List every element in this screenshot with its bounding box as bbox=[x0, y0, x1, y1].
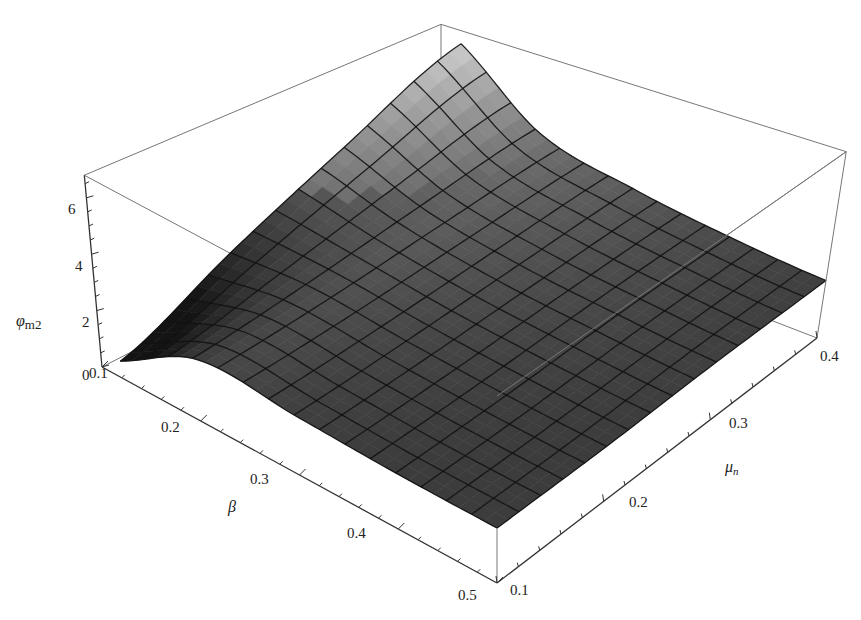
z-tick bbox=[96, 295, 100, 297]
mu-axis-title: μn bbox=[724, 458, 739, 477]
mu-tick bbox=[539, 546, 540, 550]
z-tick bbox=[85, 182, 89, 184]
beta-tick bbox=[359, 504, 362, 507]
mu-tick bbox=[795, 350, 796, 354]
beta-tick bbox=[181, 407, 184, 410]
z-tick bbox=[90, 238, 94, 240]
mu-tick bbox=[752, 383, 753, 387]
beta-tick-label: 0.3 bbox=[250, 471, 269, 487]
mu-tick bbox=[709, 413, 710, 420]
z-tick bbox=[94, 280, 98, 282]
mu-tick bbox=[645, 465, 646, 469]
beta-tick bbox=[339, 494, 342, 497]
beta-tick bbox=[398, 523, 404, 529]
beta-tick bbox=[280, 461, 283, 464]
mu-tick bbox=[603, 494, 604, 501]
box-edge bbox=[817, 152, 846, 338]
beta-tick-label: 0.1 bbox=[89, 365, 108, 381]
mu-tick-label: 0.1 bbox=[510, 582, 529, 598]
mu-tick bbox=[517, 563, 518, 567]
beta-tick bbox=[418, 537, 421, 540]
z-tick-label: 2 bbox=[82, 314, 90, 330]
z-tick bbox=[101, 351, 105, 353]
z-tick bbox=[88, 210, 92, 212]
beta-tick-label: 0.4 bbox=[347, 525, 366, 541]
mu-tick bbox=[560, 530, 561, 534]
beta-tick bbox=[122, 375, 125, 378]
beta-tick bbox=[161, 396, 164, 399]
z-axis bbox=[84, 175, 102, 367]
z-tick bbox=[92, 252, 99, 254]
mu-tick bbox=[731, 399, 732, 403]
mu-tick-label: 0.2 bbox=[629, 494, 648, 510]
mu-tick-label: 0.3 bbox=[729, 415, 748, 431]
beta-tick bbox=[477, 569, 480, 572]
surface-plot: 0 2 4 6 0.1 0.2 0.3 0.4 0.5 0.1 0.2 0.3 … bbox=[0, 0, 861, 620]
z-tick bbox=[97, 309, 104, 311]
mu-tick bbox=[667, 448, 668, 452]
beta-tick bbox=[379, 515, 382, 518]
z-tick-label: 6 bbox=[68, 201, 76, 217]
beta-tick bbox=[300, 469, 306, 475]
beta-tick bbox=[438, 548, 441, 551]
mu-tick bbox=[581, 514, 582, 518]
z-tick-label: 4 bbox=[75, 258, 83, 274]
beta-tick bbox=[142, 386, 145, 389]
beta-tick bbox=[458, 558, 461, 561]
beta-tick-label: 0.5 bbox=[458, 587, 477, 603]
beta-tick-label: 0.2 bbox=[161, 419, 180, 435]
z-tick bbox=[89, 224, 93, 226]
mu-tick bbox=[624, 481, 625, 485]
z-tick bbox=[86, 196, 93, 198]
beta-tick bbox=[221, 429, 224, 432]
beta-tick bbox=[240, 440, 243, 443]
beta-tick bbox=[260, 450, 263, 453]
mu-tick-label: 0.4 bbox=[820, 348, 839, 364]
mu-tick bbox=[816, 331, 817, 338]
z-tick bbox=[99, 337, 103, 339]
z-axis-title: φm2 bbox=[16, 312, 41, 332]
mu-tick bbox=[773, 367, 774, 371]
mu-tick bbox=[688, 432, 689, 436]
beta-tick bbox=[201, 415, 207, 421]
z-tick bbox=[93, 266, 97, 268]
beta-tick bbox=[497, 577, 503, 583]
beta-axis-title: β bbox=[227, 498, 236, 516]
z-axis-ticks: 0 2 4 6 bbox=[68, 201, 90, 383]
beta-tick bbox=[319, 483, 322, 486]
surface-mesh bbox=[120, 44, 826, 528]
z-tick bbox=[98, 323, 102, 325]
